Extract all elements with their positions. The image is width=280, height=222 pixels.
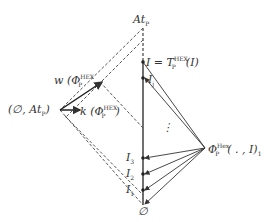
node-i1: [141, 188, 145, 192]
dashed-upper-outer: [60, 28, 143, 110]
label-k: k (ΦHEXP): [80, 105, 120, 119]
node-i3: [141, 156, 145, 160]
label-left-node: (∅, AtP): [8, 104, 50, 117]
label-w: w (ΦHEXP: [54, 74, 82, 88]
label-phi: ΦHexP( . , I)1: [208, 143, 262, 157]
label-dots: ⋮: [162, 122, 173, 133]
fan-line-ij: [145, 78, 205, 148]
label-i3: I3: [126, 152, 134, 165]
node-fixpoint: [141, 60, 145, 64]
node-ij: [141, 76, 145, 80]
lattice-diagram: AtP I = THEXP(I) Ij w (ΦHEXP (∅, AtP) k …: [0, 0, 280, 222]
label-bottom: ∅: [138, 206, 148, 217]
label-i2: I2: [126, 168, 134, 181]
label-atp: AtP: [133, 14, 149, 27]
fan-line-i1: [145, 148, 205, 190]
fan-line-i2: [145, 148, 205, 174]
label-ij: Ij: [148, 74, 154, 87]
node-i2: [141, 172, 145, 176]
label-i1: I1: [126, 184, 134, 197]
label-fixpoint: I = THEXP(I): [146, 56, 199, 70]
